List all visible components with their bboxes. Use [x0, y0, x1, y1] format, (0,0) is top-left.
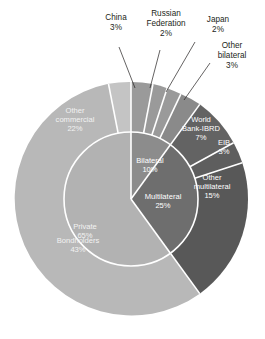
outer-label-other-multi-line1: Other: [203, 173, 222, 182]
callout-china-value: 3%: [110, 23, 122, 32]
outer-label-other-multi-value: 15%: [204, 191, 219, 200]
inner-label-bilateral-name: Bilateral: [136, 156, 164, 165]
outer-label-worldbank-line2: Bank-IBRD: [182, 124, 220, 133]
chart-svg: Private 65% Bilateral 10% Multilateral 2…: [0, 0, 265, 339]
callout-russia-value: 2%: [160, 29, 172, 38]
callout-russia-line1: Russian: [151, 9, 181, 18]
outer-label-eib-value: 3%: [219, 147, 230, 156]
callout-other-bilateral-line1: Other: [222, 41, 243, 50]
outer-label-eib-name: EIB: [218, 138, 230, 147]
outer-label-other-multi-line2: multilateral: [194, 182, 231, 191]
outer-label-other-commercial-line2: commercial: [56, 115, 95, 124]
callout-other-bilateral-line2: bilateral: [218, 51, 247, 60]
outer-label-other-commercial-line1: Other: [66, 106, 85, 115]
inner-label-multilateral-value: 25%: [155, 201, 170, 210]
callout-japan-value: 2%: [212, 25, 224, 34]
callout-china-name: China: [105, 13, 127, 22]
outer-label-other-commercial-value: 22%: [67, 124, 82, 133]
callout-russia-line2: Federation: [146, 19, 186, 28]
callout-japan-name: Japan: [207, 15, 230, 24]
outer-label-bondholders-name: Bondholders: [57, 236, 100, 245]
outer-label-bondholders-value: 43%: [70, 245, 85, 254]
outer-label-worldbank-line1: World: [191, 115, 211, 124]
inner-label-bilateral-value: 10%: [142, 165, 157, 174]
inner-label-multilateral-name: Multilateral: [145, 192, 182, 201]
callout-other-bilateral-value: 3%: [226, 61, 238, 70]
outer-label-worldbank-value: 7%: [196, 133, 207, 142]
nested-donut-chart: Private 65% Bilateral 10% Multilateral 2…: [0, 0, 265, 339]
inner-label-private-name: Private: [73, 222, 97, 231]
